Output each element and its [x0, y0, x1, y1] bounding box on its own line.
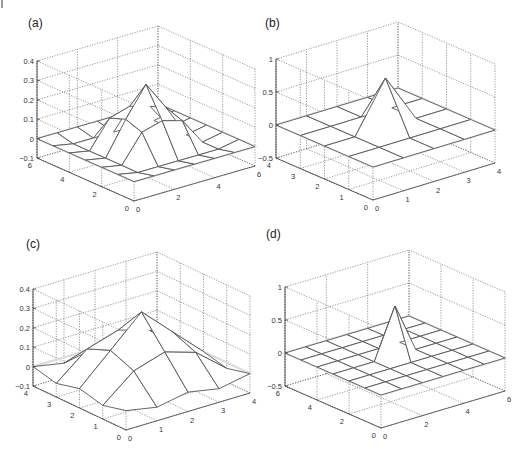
y-tick-label: 2: [315, 182, 319, 191]
z-tick-label: 0.1: [24, 115, 34, 124]
z-tick-label: 0.4: [24, 57, 34, 66]
y-tick-label: 4: [267, 161, 271, 170]
gridline-z-left: [285, 287, 381, 329]
gridline-z-back: [37, 26, 158, 61]
y-tick-label: 2: [92, 190, 96, 199]
z-tick-label: 0.4: [20, 285, 30, 294]
x-tick-label: 3: [466, 176, 470, 185]
z-tick-label: 0: [30, 135, 34, 144]
z-tick-label: 1: [269, 55, 273, 64]
z-tick-label: 0.3: [24, 76, 34, 85]
gridline-z-back: [37, 45, 158, 80]
x-tick-label: 0: [375, 204, 379, 213]
z-tick-label: 0.1: [20, 343, 30, 352]
x-tick-label: 2: [436, 186, 440, 195]
z-tick-label: 0.2: [20, 324, 30, 333]
gridline-z-back: [285, 250, 409, 287]
x-tick-label: 6: [507, 395, 511, 404]
y-tick-label: 2: [340, 417, 344, 426]
x-tick-label: 3: [221, 406, 225, 415]
x-tick-label: 1: [405, 195, 409, 204]
x-tick-label: 1: [159, 425, 163, 434]
gridline-z-left: [37, 61, 134, 104]
subplot-d: (d) −0.500.5102460246: [266, 227, 511, 441]
gridline-z-right: [158, 26, 255, 69]
y-axis: [285, 386, 381, 428]
x-axis: [381, 391, 505, 428]
z-tick-label: 0: [26, 363, 30, 372]
x-tick-label: 0: [383, 432, 387, 441]
y-tick-label: 4: [24, 389, 28, 398]
y-tick-label: 0: [372, 431, 376, 440]
x-tick-label: 4: [217, 182, 221, 191]
z-tick-label: 0: [278, 349, 282, 358]
gridline-z-right: [409, 250, 505, 292]
y-tick-label: 0: [364, 203, 368, 212]
x-tick-label: 2: [190, 416, 194, 425]
z-tick-label: 1: [278, 283, 282, 292]
x-axis: [373, 163, 495, 200]
y-tick-label: 2: [70, 411, 74, 420]
panel-label-c: (c): [26, 237, 40, 251]
y-tick-label: 1: [340, 193, 344, 202]
subplot-a: (a) −0.100.10.20.30.402460246: [19, 16, 261, 214]
y-tick-label: 4: [60, 175, 64, 184]
z-tick-label: 0.2: [24, 96, 34, 105]
z-tick-label: 0.3: [20, 304, 30, 313]
y-tick-label: 6: [28, 161, 32, 170]
y-tick-label: 4: [308, 403, 312, 412]
panel-label-b: (b): [265, 16, 280, 30]
y-tick-label: 1: [94, 422, 98, 431]
x-tick-label: 4: [252, 397, 256, 406]
x-tick-label: 2: [176, 193, 180, 202]
gridline-z-right: [158, 45, 255, 88]
x-tick-label: 0: [128, 434, 132, 443]
z-tick-label: 0.5: [272, 316, 282, 325]
gridline-z-right: [158, 65, 255, 108]
y-tick-label: 3: [47, 400, 51, 409]
y-tick-label: 6: [276, 389, 280, 398]
x-tick-label: 6: [257, 170, 261, 179]
z-tick-label: 0.5: [263, 88, 273, 97]
panel-label-d: (d): [266, 227, 281, 241]
panel-label-a: (a): [28, 16, 43, 30]
x-tick-label: 2: [424, 420, 428, 429]
y-tick-label: 3: [291, 172, 295, 181]
y-tick-label: 0: [117, 433, 121, 442]
subplot-b: (b) −0.500.510123401234: [258, 16, 501, 213]
x-tick-label: 4: [497, 167, 501, 176]
subplot-c: (c) −0.100.10.20.30.40123401234: [15, 237, 256, 443]
gridline-z-back: [33, 271, 157, 308]
y-tick-label: 0: [125, 204, 129, 213]
gridline-z-right: [409, 283, 505, 325]
gridline-z-right: [157, 271, 250, 315]
x-tick-label: 0: [136, 205, 140, 214]
figure-canvas: (a) −0.100.10.20.30.402460246 (b) −0.500…: [0, 0, 527, 452]
x-tick-label: 4: [466, 407, 470, 416]
z-tick-label: 0: [269, 121, 273, 130]
